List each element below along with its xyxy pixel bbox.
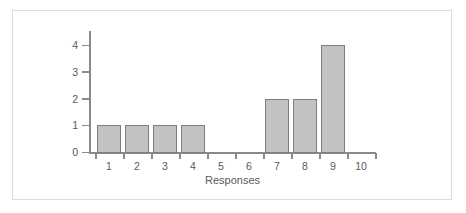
y-tick-label-3-wrap: 3 xyxy=(56,67,78,77)
x-tick-label-9: 9 xyxy=(320,161,346,172)
x-tick-label-5: 5 xyxy=(208,161,234,172)
x-tick-boundary-3 xyxy=(179,153,181,159)
bar-3 xyxy=(153,125,177,153)
y-tick-label-2-wrap: 2 xyxy=(56,94,78,104)
y-tick-label-4: 4 xyxy=(58,40,78,50)
y-tick-label-4-wrap: 4 xyxy=(56,40,78,50)
x-tick-label-1: 1 xyxy=(96,161,122,172)
x-tick-boundary-4 xyxy=(207,153,209,159)
x-tick-boundary-10 xyxy=(375,153,377,159)
x-tick-label-10: 10 xyxy=(348,161,374,172)
y-tick-label-2: 2 xyxy=(58,94,78,104)
y-axis-line xyxy=(89,31,91,153)
y-tick-3 xyxy=(82,71,89,73)
x-tick-boundary-7 xyxy=(291,153,293,159)
y-tick-label-1: 1 xyxy=(58,120,78,130)
y-tick-0 xyxy=(82,152,89,154)
x-tick-label-8: 8 xyxy=(292,161,318,172)
y-tick-label-1-wrap: 1 xyxy=(56,120,78,130)
bar-8 xyxy=(293,99,317,153)
x-tick-boundary-2 xyxy=(151,153,153,159)
y-tick-label-0: 0 xyxy=(58,147,78,157)
y-tick-label-3: 3 xyxy=(58,67,78,77)
bar-1 xyxy=(97,125,121,153)
bar-2 xyxy=(125,125,149,153)
x-tick-label-6: 6 xyxy=(236,161,262,172)
x-tick-label-4: 4 xyxy=(180,161,206,172)
x-tick-boundary-0 xyxy=(95,153,97,159)
x-tick-boundary-9 xyxy=(347,153,349,159)
x-tick-boundary-8 xyxy=(319,153,321,159)
bar-9 xyxy=(321,45,345,153)
x-axis-title: Responses xyxy=(89,174,376,186)
bar-4 xyxy=(181,125,205,153)
y-tick-2 xyxy=(82,98,89,100)
x-tick-label-2: 2 xyxy=(124,161,150,172)
x-tick-label-7: 7 xyxy=(264,161,290,172)
y-tick-4 xyxy=(82,45,89,47)
x-tick-boundary-1 xyxy=(123,153,125,159)
bar-chart: 0 1 2 3 4 1 2 3 4 5 6 7 8 9 10 Responses xyxy=(0,0,466,213)
y-tick-1 xyxy=(82,125,89,127)
bar-7 xyxy=(265,99,289,153)
y-tick-label-0-wrap: 0 xyxy=(56,147,78,157)
x-tick-boundary-5 xyxy=(235,153,237,159)
x-tick-label-3: 3 xyxy=(152,161,178,172)
x-tick-boundary-6 xyxy=(263,153,265,159)
